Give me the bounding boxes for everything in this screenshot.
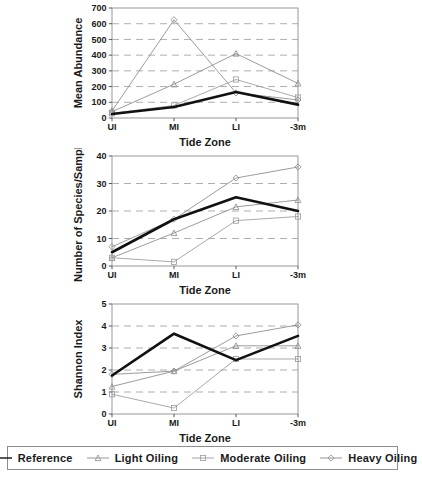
chart-svg-mean-abundance: 0100200300400500600700UIMILI-3mTide Zone… xyxy=(0,0,407,150)
legend-entry-moderate-oiling[interactable]: Moderate Oiling xyxy=(184,452,312,464)
y-axis-tick-label: 10 xyxy=(96,234,106,244)
legend-entry-reference[interactable]: Reference xyxy=(0,452,79,464)
legend-label: Heavy Oiling xyxy=(348,452,417,464)
x-axis-tick-label: -3m xyxy=(290,270,306,280)
legend-swatch-square-open xyxy=(190,452,216,464)
x-axis-tick-label: UI xyxy=(108,418,117,428)
y-axis-tick-label: 0 xyxy=(101,261,106,271)
chart-panel-shannon-index: 012345UIMILI-3mTide ZoneShannon Index xyxy=(0,296,407,446)
x-axis-title: Tide Zone xyxy=(179,136,231,148)
chart-panel-mean-abundance: 0100200300400500600700UIMILI-3mTide Zone… xyxy=(0,0,407,150)
y-axis-tick-label: 3 xyxy=(101,343,106,353)
legend-entry-heavy-oiling[interactable]: Heavy Oiling xyxy=(312,452,422,464)
legend-swatch-line xyxy=(0,452,14,464)
chart-svg-shannon-index: 012345UIMILI-3mTide ZoneShannon Index xyxy=(0,296,407,446)
x-axis-tick-label: LI xyxy=(232,270,240,280)
x-axis-tick-label: UI xyxy=(108,122,117,132)
x-axis-tick-label: MI xyxy=(169,270,179,280)
y-axis-tick-label: 100 xyxy=(91,97,106,107)
x-axis-tick-label: MI xyxy=(169,122,179,132)
y-axis-title: Number of Species/Sample xyxy=(72,148,84,282)
y-axis-tick-label: 2 xyxy=(101,365,106,375)
plot-frame xyxy=(112,8,298,118)
legend-label: Reference xyxy=(18,452,73,464)
x-axis-title: Tide Zone xyxy=(179,284,231,296)
y-axis-tick-label: 4 xyxy=(101,321,106,331)
chart-svg-number-of-species: 010203040UIMILI-3mTide ZoneNumber of Spe… xyxy=(0,148,407,298)
legend-swatch-triangle-up-open xyxy=(85,452,111,464)
y-axis-title: Shannon Index xyxy=(72,319,84,399)
x-axis-tick-label: -3m xyxy=(290,418,306,428)
y-axis-tick-label: 500 xyxy=(91,35,106,45)
legend-entry-light-oiling[interactable]: Light Oiling xyxy=(79,452,185,464)
x-axis-tick-label: -3m xyxy=(290,122,306,132)
x-axis-tick-label: LI xyxy=(232,122,240,132)
chart-panel-number-of-species: 010203040UIMILI-3mTide ZoneNumber of Spe… xyxy=(0,148,407,298)
y-axis-tick-label: 400 xyxy=(91,50,106,60)
y-axis-tick-label: 600 xyxy=(91,19,106,29)
y-axis-tick-label: 30 xyxy=(96,179,106,189)
y-axis-tick-label: 20 xyxy=(96,206,106,216)
legend-entries: ReferenceLight OilingModerate OilingHeav… xyxy=(8,447,397,469)
legend-swatch-diamond-open xyxy=(318,452,344,464)
x-axis-tick-label: UI xyxy=(108,270,117,280)
chart-legend: ReferenceLight OilingModerate OilingHeav… xyxy=(7,446,398,470)
y-axis-tick-label: 1 xyxy=(101,387,106,397)
y-axis-tick-label: 0 xyxy=(101,113,106,123)
y-axis-tick-label: 5 xyxy=(101,299,106,309)
x-axis-tick-label: LI xyxy=(232,418,240,428)
y-axis-tick-label: 200 xyxy=(91,82,106,92)
legend-label: Moderate Oiling xyxy=(220,452,306,464)
x-axis-tick-label: MI xyxy=(169,418,179,428)
y-axis-tick-label: 700 xyxy=(91,3,106,13)
y-axis-tick-label: 40 xyxy=(96,151,106,161)
legend-label: Light Oiling xyxy=(115,452,179,464)
y-axis-tick-label: 300 xyxy=(91,66,106,76)
y-axis-title: Mean Abundance xyxy=(72,18,84,109)
y-axis-tick-label: 0 xyxy=(101,409,106,419)
x-axis-title: Tide Zone xyxy=(179,432,231,444)
